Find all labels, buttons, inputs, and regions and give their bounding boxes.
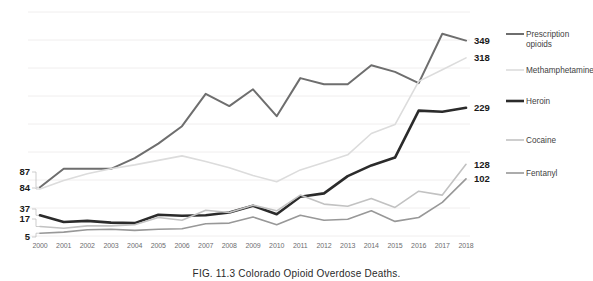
start-value-label: 84 <box>19 182 30 193</box>
figure-container: 2000200120022003200420052006200720082009… <box>0 0 593 281</box>
x-tick-label: 2009 <box>245 242 260 249</box>
end-value-label: 102 <box>474 173 490 184</box>
x-tick-label: 2014 <box>364 242 379 249</box>
x-tick-label: 2002 <box>80 242 95 249</box>
x-tick-label: 2006 <box>174 242 189 249</box>
x-tick-label: 2001 <box>56 242 71 249</box>
figure-caption: FIG. 11.3 Colorado Opioid Overdose Death… <box>0 268 593 279</box>
chart-legend: PrescriptionopioidsMethamphetamineHeroin… <box>506 30 593 178</box>
end-value-labels: 349318229128102 <box>474 35 490 184</box>
x-axis-tick-labels: 2000200120022003200420052006200720082009… <box>32 242 473 249</box>
x-tick-label: 2016 <box>411 242 426 249</box>
start-leader-line <box>32 219 40 227</box>
end-value-label: 349 <box>474 35 490 46</box>
x-tick-label: 2007 <box>198 242 213 249</box>
start-value-label: 87 <box>19 166 30 177</box>
start-leader-line <box>32 209 40 215</box>
start-value-label: 17 <box>19 213 30 224</box>
start-leader-line <box>32 188 40 189</box>
start-value-labels: 878437175 <box>19 166 30 242</box>
x-tick-label: 2008 <box>222 242 237 249</box>
series-lines <box>40 34 466 233</box>
legend-label: Methamphetamine <box>526 66 593 75</box>
x-tick-label: 2017 <box>435 242 450 249</box>
legend-label: opioids <box>526 40 552 49</box>
end-value-label: 229 <box>474 102 490 113</box>
x-tick-label: 2011 <box>293 242 308 249</box>
legend-label: Cocaine <box>526 136 556 145</box>
end-value-label: 318 <box>474 52 490 63</box>
legend-label: Prescription <box>526 30 570 39</box>
x-tick-label: 2000 <box>32 242 47 249</box>
legend-label: Fentanyl <box>526 169 558 178</box>
x-tick-label: 2012 <box>316 242 331 249</box>
x-tick-label: 2005 <box>151 242 166 249</box>
x-tick-label: 2018 <box>458 242 473 249</box>
series-line-cocaine <box>40 164 466 228</box>
start-value-label: 5 <box>25 231 31 242</box>
start-leader-line <box>32 233 40 237</box>
end-value-label: 128 <box>474 159 490 170</box>
line-chart: 2000200120022003200420052006200720082009… <box>0 0 593 281</box>
legend-label: Heroin <box>526 97 551 106</box>
x-tick-label: 2004 <box>127 242 142 249</box>
x-tick-label: 2015 <box>387 242 402 249</box>
x-tick-label: 2010 <box>269 242 284 249</box>
start-leader-lines <box>32 172 40 237</box>
x-tick-label: 2013 <box>340 242 355 249</box>
x-tick-label: 2003 <box>103 242 118 249</box>
